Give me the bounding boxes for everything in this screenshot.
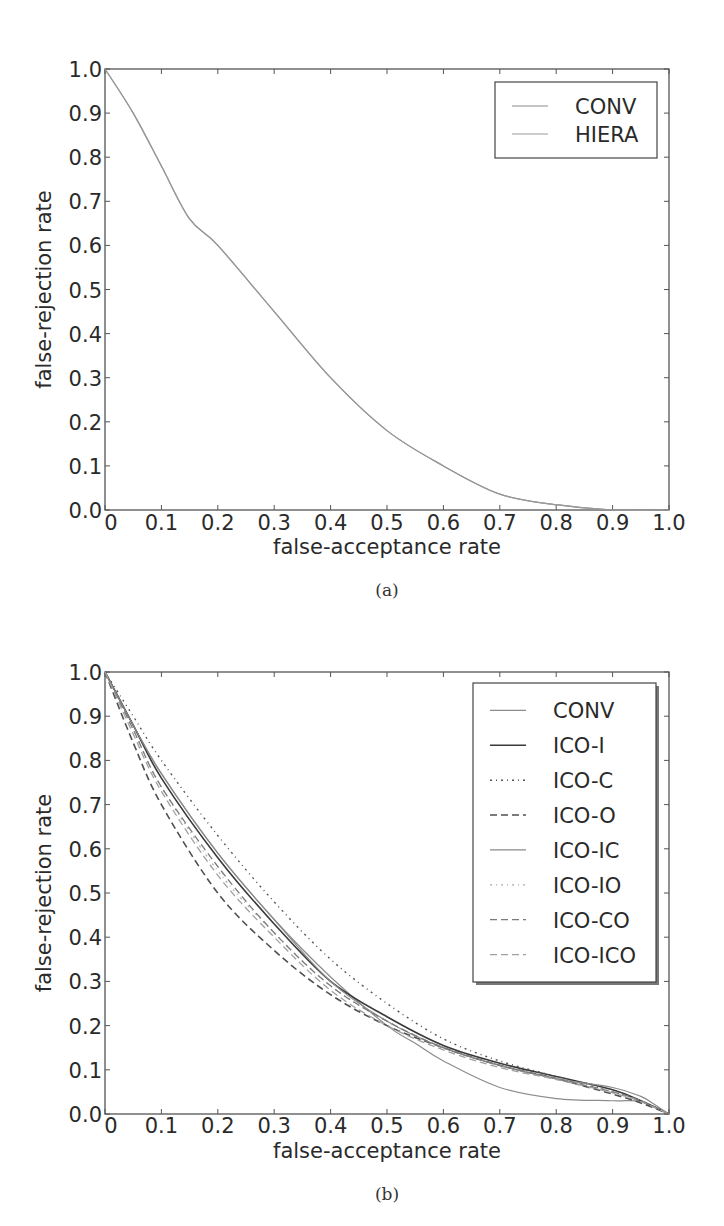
figure: 00.10.20.30.40.50.60.70.80.91.00.00.10.2… [0, 0, 724, 1226]
x-tick-label: 0.6 [427, 1114, 460, 1138]
x-tick-label: 1.0 [652, 511, 685, 535]
y-tick-label: 0.1 [69, 455, 102, 479]
legend-label-ico-o: ICO-O [553, 804, 616, 828]
x-tick-label: 0.3 [257, 511, 290, 535]
figure-caption: (b) [375, 1184, 399, 1204]
legend-label-conv: CONV [553, 699, 615, 723]
x-tick-label: 0.5 [370, 1114, 403, 1138]
x-tick-label: 0.8 [539, 1114, 572, 1138]
y-tick-label: 0.5 [69, 279, 102, 303]
x-tick-label: 1.0 [652, 1114, 685, 1138]
x-tick-label: 0 [104, 1114, 117, 1138]
y-tick-label: 0.7 [69, 190, 102, 214]
y-tick-label: 1.0 [69, 58, 102, 82]
x-tick-label: 0.4 [314, 511, 347, 535]
legend-label-ico-io: ICO-IO [553, 874, 621, 898]
figure-caption: (a) [375, 580, 398, 600]
chart-a-roc-conv-hiera: 00.10.20.30.40.50.60.70.80.91.00.00.10.2… [32, 58, 686, 600]
y-tick-label: 0.9 [69, 705, 102, 729]
y-tick-label: 0.2 [69, 411, 102, 435]
x-tick-label: 0.1 [145, 1114, 178, 1138]
legend-label-ico-ico: ICO-ICO [553, 944, 636, 968]
x-tick-label: 0.7 [483, 511, 516, 535]
legend-label-hiera: HIERA [575, 123, 639, 147]
x-axis-label: false-acceptance rate [273, 535, 501, 559]
y-tick-label: 0.0 [69, 1103, 102, 1127]
legend-box [473, 683, 656, 982]
chart-b-roc-ico-variants: 00.10.20.30.40.50.60.70.80.91.00.00.10.2… [32, 661, 686, 1204]
x-tick-label: 0.9 [596, 1114, 629, 1138]
y-tick-label: 0.2 [69, 1015, 102, 1039]
y-axis-label: false-rejection rate [32, 190, 56, 389]
y-tick-label: 0.4 [69, 323, 102, 347]
y-tick-label: 0.6 [69, 234, 102, 258]
legend-label-ico-c: ICO-C [553, 769, 613, 793]
x-tick-label: 0.8 [539, 511, 572, 535]
x-axis-label: false-acceptance rate [273, 1139, 501, 1163]
y-tick-label: 0.0 [69, 499, 102, 523]
x-tick-label: 0 [104, 511, 117, 535]
y-tick-label: 0.5 [69, 882, 102, 906]
x-tick-label: 0.4 [314, 1114, 347, 1138]
x-tick-label: 0.6 [427, 511, 460, 535]
x-tick-label: 0.2 [201, 511, 234, 535]
y-axis-label: false-rejection rate [32, 794, 56, 993]
x-tick-label: 0.2 [201, 1114, 234, 1138]
y-tick-label: 0.7 [69, 794, 102, 818]
x-tick-label: 0.5 [370, 511, 403, 535]
x-tick-label: 0.7 [483, 1114, 516, 1138]
legend-label-conv: CONV [575, 95, 637, 119]
x-tick-label: 0.9 [596, 511, 629, 535]
x-tick-label: 0.3 [257, 1114, 290, 1138]
y-tick-label: 1.0 [69, 661, 102, 685]
y-tick-label: 0.6 [69, 838, 102, 862]
y-tick-label: 0.3 [69, 970, 102, 994]
y-tick-label: 0.8 [69, 146, 102, 170]
y-tick-label: 0.3 [69, 367, 102, 391]
legend-label-ico-ic: ICO-IC [553, 839, 619, 863]
y-tick-label: 0.4 [69, 926, 102, 950]
x-tick-label: 0.1 [145, 511, 178, 535]
legend-label-ico-co: ICO-CO [553, 909, 630, 933]
y-tick-label: 0.1 [69, 1059, 102, 1083]
y-tick-label: 0.8 [69, 749, 102, 773]
y-tick-label: 0.9 [69, 102, 102, 126]
legend-label-ico-i: ICO-I [553, 734, 605, 758]
